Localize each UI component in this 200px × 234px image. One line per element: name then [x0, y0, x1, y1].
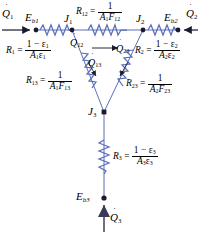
label-eb1-base: E [25, 11, 32, 23]
label-q1: ˙ Q1 [2, 8, 13, 20]
node-dot-eb3 [101, 195, 106, 200]
overdot-q13: ˙ [91, 53, 94, 61]
node-dot-eb2 [176, 28, 181, 33]
node-dot-j2 [141, 28, 146, 33]
label-j2-sub: 2 [141, 18, 144, 25]
label-eb1-sub: b1 [32, 17, 39, 24]
label-eb2: Eb2 [164, 12, 178, 24]
label-q3: ˙ Q3 [110, 212, 121, 224]
overdot-q23: ˙ [119, 39, 122, 47]
label-eb3-sub: b3 [83, 196, 90, 203]
label-j2: J2 [136, 13, 144, 25]
label-j3-sub: 3 [93, 111, 96, 118]
label-eb1: Eb1 [25, 12, 39, 24]
label-r3-den-e-sub: 3 [150, 160, 153, 166]
label-r2-equation: R2 = 1 − ε2 A2ε2 [135, 40, 180, 61]
label-q2: ˙ Q2 [186, 8, 197, 20]
label-r1-den-e-sub: 1 [43, 54, 46, 60]
label-eb3: Eb3 [76, 191, 90, 203]
label-r23-equation: R23 = 1 A2F23 [126, 74, 172, 95]
label-r2-den-e-sub: 2 [172, 54, 175, 60]
label-r2-name-sub: 2 [141, 49, 144, 55]
label-r1-numerator: 1 − ε [27, 39, 46, 49]
label-r1-name-sub: 1 [12, 49, 15, 55]
equals-r12: = [90, 6, 95, 16]
label-r3-numerator: 1 − ε [134, 145, 153, 155]
label-r1-equation: R1 = 1 − ε1 A1ε1 [6, 40, 51, 61]
label-r13-name-sub: 13 [32, 80, 38, 86]
label-r13-den-f-sub: 13 [64, 85, 70, 91]
radiation-network-figure: ˙ Q1 Eb1 J1 J2 Eb2 ˙ Q2 R12 = 1 A1F12 [0, 0, 200, 234]
node-dot-eb1 [34, 28, 39, 33]
equals-r1: = [17, 45, 22, 55]
label-q2-sub: 2 [194, 13, 197, 20]
label-r2-num-sub: 2 [175, 43, 178, 49]
label-q13: ˙ Q13 [88, 58, 101, 69]
label-r12-equation: R12 = 1 A1F12 [76, 2, 122, 23]
label-r12-den-f-sub: 12 [114, 16, 120, 22]
label-q23-sub: 23 [123, 47, 129, 54]
overdot-q1: ˙ [5, 3, 8, 12]
overdot-q3: ˙ [113, 207, 116, 216]
label-q12: ˙ Q12 [70, 38, 83, 49]
label-r23-numerator: 1 [148, 74, 172, 84]
label-eb2-base: E [164, 11, 171, 23]
label-q3-sub: 3 [118, 217, 121, 224]
equals-r3: = [124, 151, 129, 161]
label-r13-numerator: 1 [48, 71, 72, 81]
label-r23-name-sub: 23 [132, 83, 138, 89]
label-eb3-base: E [76, 190, 83, 202]
overdot-q2: ˙ [189, 3, 192, 12]
network-schematic [0, 0, 200, 234]
label-j3: J3 [88, 106, 96, 118]
label-r3-num-sub: 3 [153, 149, 156, 155]
label-eb2-sub: b2 [171, 17, 178, 24]
label-r2-numerator: 1 − ε [156, 39, 175, 49]
node-dot-j3 [102, 110, 107, 115]
label-r12-name-sub: 12 [82, 11, 88, 17]
label-q13-sub: 13 [95, 61, 101, 68]
label-r13-equation: R13 = 1 A1F13 [26, 71, 72, 92]
label-q12-sub: 12 [77, 41, 83, 48]
label-r3-equation: R3 = 1 − ε3 A3ε3 [113, 146, 158, 167]
label-r12-numerator: 1 [98, 2, 122, 12]
equals-r2: = [146, 45, 151, 55]
label-j1-sub: 1 [69, 18, 72, 25]
label-r3-name-sub: 3 [119, 155, 122, 161]
label-r23-den-f-sub: 23 [164, 88, 170, 94]
label-j1: J1 [64, 13, 72, 25]
equals-r13: = [40, 75, 45, 85]
label-q23: ˙ Q23 [116, 44, 129, 55]
label-r1-num-sub: 1 [46, 43, 49, 49]
equals-r23: = [140, 78, 145, 88]
overdot-q12: ˙ [73, 33, 76, 41]
label-q1-sub: 1 [10, 13, 13, 20]
